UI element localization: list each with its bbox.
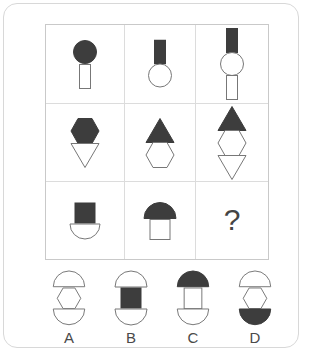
dome-shape-white — [114, 270, 148, 288]
option-letter-d: D — [250, 329, 261, 346]
square-shape-dark — [120, 287, 142, 309]
matrix-cell-r1c3[interactable] — [196, 25, 268, 104]
shape-stack — [145, 117, 175, 168]
shape-stack — [71, 39, 99, 89]
dome-shape-dark — [176, 270, 210, 288]
shape-stack — [69, 202, 101, 240]
shape-stack — [146, 40, 174, 89]
rect-shape-white — [78, 64, 92, 89]
answer-option-d[interactable]: D — [226, 270, 284, 352]
matrix-cell-r1c1[interactable] — [46, 25, 125, 104]
shape-stack — [176, 270, 210, 326]
circle-shape-white — [218, 51, 246, 77]
square-shape-white — [149, 218, 171, 240]
question-mark: ? — [224, 205, 241, 235]
hexagon-shape-white — [217, 129, 247, 156]
bowl-shape-white — [114, 308, 148, 326]
dome-shape-dark — [143, 201, 177, 219]
shape-stack — [70, 117, 100, 168]
triangle-up-shape-dark — [145, 117, 175, 143]
shape-stack — [218, 28, 246, 100]
circle-shape-white — [146, 63, 174, 89]
matrix-cell-r3c1[interactable] — [46, 182, 125, 259]
bowl-shape-dark — [238, 308, 272, 326]
option-letter-b: B — [126, 329, 136, 346]
hexagon-shape-dark — [70, 117, 100, 144]
answer-options: A B — [40, 270, 284, 352]
shape-stack — [143, 201, 177, 240]
triangle-up-shape-dark — [217, 105, 247, 131]
square-shape-dark — [74, 202, 96, 224]
bowl-shape-white — [52, 308, 86, 326]
option-letter-a: A — [64, 329, 74, 346]
matrix-cell-r3c3[interactable]: ? — [196, 182, 268, 259]
matrix-cell-r1c2[interactable] — [125, 25, 196, 104]
option-letter-c: C — [188, 329, 199, 346]
hexagon-shape-white — [145, 141, 175, 168]
matrix-grid: ? — [45, 24, 269, 260]
hexagon-shape-white — [56, 287, 82, 310]
answer-option-a[interactable]: A — [40, 270, 98, 352]
bowl-shape-white — [69, 223, 101, 240]
rect-shape-white — [225, 75, 239, 100]
circle-shape-dark — [71, 39, 99, 65]
dome-shape-white — [238, 270, 272, 288]
puzzle-card: ? A — [3, 3, 299, 348]
shape-stack — [238, 270, 272, 326]
matrix-cell-r2c3[interactable] — [196, 104, 268, 182]
rect-shape-white — [183, 287, 203, 310]
rect-shape-dark — [225, 28, 239, 53]
matrix-cell-r3c2[interactable] — [125, 182, 196, 259]
matrix-cell-r2c2[interactable] — [125, 104, 196, 182]
bowl-shape-white — [176, 308, 210, 326]
hexagon-shape-white — [242, 287, 268, 310]
dome-shape-white — [52, 270, 86, 288]
answer-option-b[interactable]: B — [102, 270, 160, 352]
rect-shape-dark — [153, 40, 167, 65]
shape-stack — [217, 105, 247, 180]
answer-option-c[interactable]: C — [164, 270, 222, 352]
shape-stack — [52, 270, 86, 326]
triangle-down-shape-white — [70, 142, 100, 168]
triangle-down-shape-white — [217, 154, 247, 180]
shape-stack — [114, 270, 148, 326]
matrix-cell-r2c1[interactable] — [46, 104, 125, 182]
